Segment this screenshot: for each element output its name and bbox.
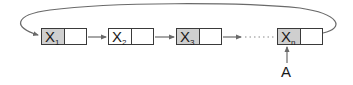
node-next-pointer-cell: [132, 29, 153, 44]
node-x1: X1: [41, 28, 87, 45]
circular-linked-list-diagram: X1 X2 X3 Xn A: [0, 0, 353, 85]
node-next-pointer-cell: [301, 29, 322, 44]
node-label: X1: [45, 28, 59, 51]
node-xn: Xn: [277, 28, 323, 45]
node-data-cell: X3: [177, 29, 200, 44]
node-next-pointer-cell: [200, 29, 221, 44]
node-data-cell: X2: [109, 29, 132, 44]
node-next-pointer-cell: [65, 29, 86, 44]
node-label: X2: [112, 28, 126, 51]
node-x2: X2: [108, 28, 154, 45]
node-x3: X3: [176, 28, 222, 45]
node-data-cell: X1: [42, 29, 65, 44]
node-label: Xn: [281, 28, 295, 51]
node-data-cell: Xn: [278, 29, 301, 44]
node-label: X3: [180, 28, 194, 51]
pointer-a-label: A: [281, 64, 291, 80]
